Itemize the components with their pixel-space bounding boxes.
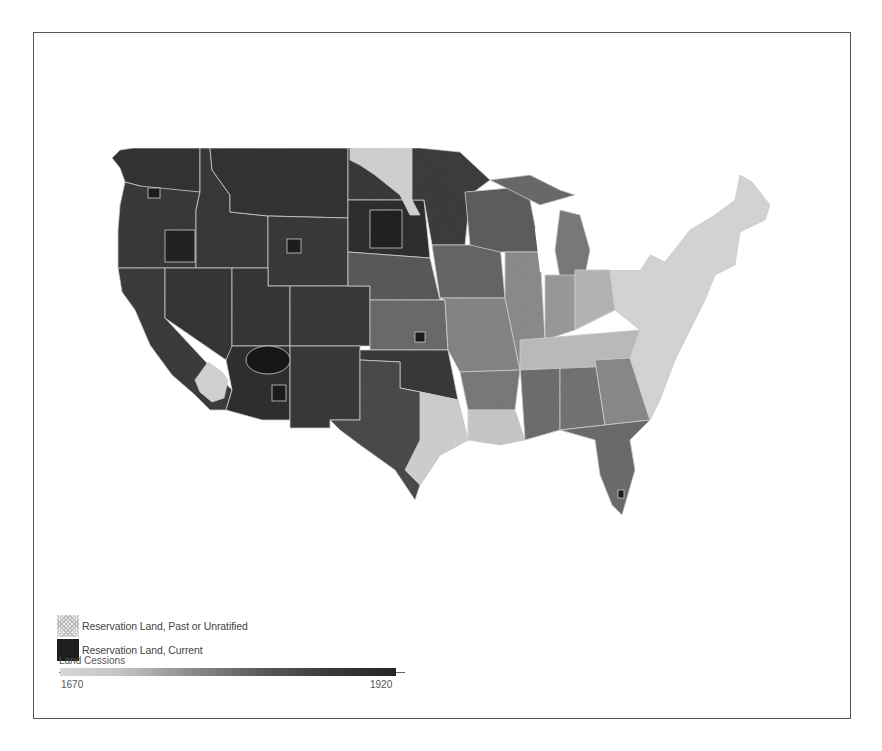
region-montana	[210, 148, 348, 218]
region-new-mexico	[290, 346, 360, 428]
reservation-patch	[618, 490, 624, 498]
reservation-patch	[165, 230, 195, 262]
reservation-patch	[287, 239, 301, 253]
region-ohio	[575, 270, 615, 330]
region-michigan-lower	[555, 210, 590, 278]
reservation-patch	[246, 346, 290, 374]
region-louisiana	[468, 410, 525, 445]
region-colorado	[290, 286, 370, 346]
reservation-patch	[370, 210, 402, 248]
region-florida	[560, 420, 650, 515]
hatched-swatch-icon	[57, 615, 79, 637]
region-wyoming	[268, 216, 348, 286]
region-arkansas	[460, 370, 520, 410]
reservation-patch	[415, 332, 425, 342]
scale-start-label: 1670	[61, 679, 83, 690]
reservation-patch	[272, 385, 286, 401]
reservation-patch	[148, 188, 160, 198]
scale-end-label: 1920	[370, 679, 392, 690]
region-indiana	[545, 275, 575, 340]
region-iowa	[432, 245, 505, 298]
legend-label-past: Reservation Land, Past or Unratified	[82, 620, 248, 632]
cessions-scale-title: Land Cessions	[59, 655, 125, 666]
cessions-gradient-bar	[60, 668, 396, 676]
legend-item-past: Reservation Land, Past or Unratified	[57, 615, 248, 637]
region-kansas	[370, 300, 448, 350]
region-mississippi	[520, 365, 560, 440]
